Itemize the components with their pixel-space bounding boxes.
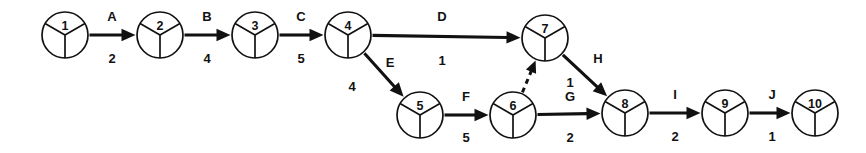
activity-duration: 1 xyxy=(438,53,445,68)
edge-f xyxy=(445,109,489,121)
network-diagram: 12345678910A2B4C5D1E4F5G2H1I2J1 xyxy=(0,0,866,153)
node-id-label: 6 xyxy=(510,99,517,113)
arrow-head xyxy=(310,29,324,41)
activity-label: D xyxy=(437,9,446,24)
activity-duration: 1 xyxy=(768,129,775,144)
node-id-label: 5 xyxy=(417,99,424,113)
activity-duration: 4 xyxy=(203,51,211,66)
node-2[interactable]: 2 xyxy=(137,12,183,58)
activity-label: E xyxy=(386,55,395,70)
edge-i xyxy=(650,107,701,119)
edge-b xyxy=(185,29,231,41)
activity-label: C xyxy=(296,9,306,24)
edge-d xyxy=(372,31,520,43)
edge-c xyxy=(280,29,324,41)
edge-j xyxy=(750,107,791,119)
activity-label: F xyxy=(462,89,470,104)
edge-a xyxy=(90,29,136,41)
activity-duration: 2 xyxy=(671,129,678,144)
arrow-head xyxy=(506,31,520,43)
node-id-label: 9 xyxy=(722,97,729,111)
network-diagram-canvas: 12345678910A2B4C5D1E4F5G2H1I2J1 xyxy=(0,0,866,153)
node-6[interactable]: 6 xyxy=(490,92,536,138)
node-id-label: 4 xyxy=(345,19,352,33)
activity-duration: 2 xyxy=(108,51,115,66)
node-id-label: 2 xyxy=(157,19,164,33)
node-9[interactable]: 9 xyxy=(702,90,748,136)
edge-dummy xyxy=(522,61,536,93)
edge-e xyxy=(364,53,403,97)
arrow-head xyxy=(777,107,791,119)
node-7[interactable]: 7 xyxy=(522,15,568,61)
node-id-label: 1 xyxy=(62,19,69,33)
arrow-head xyxy=(475,109,489,121)
node-4[interactable]: 4 xyxy=(325,12,371,58)
activity-duration: 5 xyxy=(297,51,304,66)
arrow-head xyxy=(687,107,701,119)
dummy-activity-line xyxy=(522,71,531,93)
activity-line xyxy=(537,114,587,115)
node-3[interactable]: 3 xyxy=(232,12,278,58)
activity-label: H xyxy=(593,51,602,66)
node-1[interactable]: 1 xyxy=(42,12,88,58)
node-id-label: 8 xyxy=(622,97,629,111)
node-8[interactable]: 8 xyxy=(602,90,648,136)
activity-duration: 5 xyxy=(462,130,469,145)
edge-g xyxy=(537,107,600,119)
activity-line xyxy=(372,35,507,37)
activity-duration: 4 xyxy=(348,79,356,94)
node-id-label: 10 xyxy=(808,97,822,111)
activity-label: B xyxy=(202,9,211,24)
arrow-head xyxy=(586,107,600,119)
node-10[interactable]: 10 xyxy=(792,90,838,136)
node-id-label: 3 xyxy=(252,19,259,33)
activity-label: I xyxy=(673,87,677,102)
node-5[interactable]: 5 xyxy=(397,92,443,138)
activity-label: A xyxy=(107,9,117,24)
arrow-head xyxy=(217,29,231,41)
node-layer: 12345678910 xyxy=(42,12,838,138)
node-id-label: 7 xyxy=(542,22,549,36)
activity-duration: 1 xyxy=(566,75,573,90)
activity-duration: 2 xyxy=(566,130,573,145)
activity-label: J xyxy=(768,87,775,102)
arrow-head xyxy=(122,29,136,41)
activity-label: G xyxy=(565,89,575,104)
